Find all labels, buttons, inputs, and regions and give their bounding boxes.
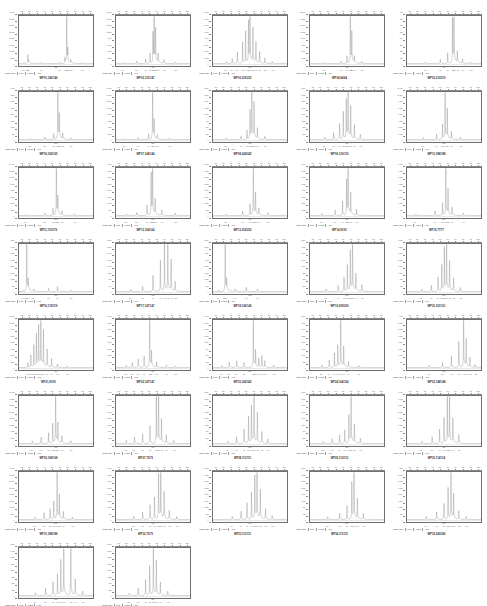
plot-area[interactable] [309, 15, 385, 67]
x-tick-label: 400 [237, 87, 240, 89]
plot-area[interactable] [406, 395, 482, 447]
plot-area[interactable] [212, 91, 288, 143]
y-tick-label: 15,000 [9, 418, 14, 420]
plot-area[interactable] [212, 471, 288, 523]
spectrum-panel-12[interactable]: 1002003004005006007008009001000 05001,00… [97, 156, 194, 232]
x-tick-label: 900 [178, 11, 181, 13]
plot-area[interactable] [18, 547, 94, 599]
x-axis-top: 1002003004005006007008009001000 [406, 236, 482, 243]
plot-area[interactable] [115, 167, 191, 219]
spectrum-panel-13[interactable]: 1002003004005006007008009001000 06251,25… [194, 156, 291, 232]
spectrum-panel-18[interactable]: 1002003004005006007008009001000 08131,62… [194, 232, 291, 308]
spectrum-panel-16[interactable]: 1002003004005006007008009001000 06881,37… [0, 232, 97, 308]
plot-area[interactable] [212, 243, 288, 295]
x-tick-label: 400 [140, 391, 143, 393]
spectrum-panel-30[interactable]: 1002003004005006007008009001000 04258501… [388, 384, 485, 460]
spectrum-panel-27[interactable]: 1002003004005006007008009001000 05751,15… [97, 384, 194, 460]
spectrum-panel-33[interactable]: 1002003004005006007008009001000 06251,25… [194, 460, 291, 536]
y-tick [306, 433, 308, 434]
mz-label: 774 [462, 222, 465, 224]
spectrum-panel-5[interactable]: 1002003004005006007008009001000 01132253… [388, 4, 485, 80]
y-tick [306, 325, 308, 326]
spectrum-panel-2[interactable]: 1002003004005006007008009001000 02,2504,… [97, 4, 194, 80]
spectrum-panel-37[interactable]: 1002003004005006007008009001000 03757501… [97, 536, 194, 606]
y-tick-label: 1,100 [301, 266, 305, 268]
y-tick-label: 2,750 [301, 58, 305, 60]
x-tick-label: 900 [178, 543, 181, 545]
plot-area[interactable] [18, 91, 94, 143]
plot-area[interactable] [212, 319, 288, 371]
plot-area[interactable] [115, 319, 191, 371]
plot-area[interactable] [18, 395, 94, 447]
plot-area[interactable] [115, 547, 191, 599]
plot-area[interactable] [406, 167, 482, 219]
spectrum-panel-4[interactable]: 1002003004005006007008009001000 02,7505,… [291, 4, 388, 80]
plot-area[interactable] [406, 471, 482, 523]
spectrum-panel-7[interactable]: 1002003004005006007008009001000 02,1254,… [97, 80, 194, 156]
spectrum-panel-20[interactable]: 1002003004005006007008009001000 04509001… [388, 232, 485, 308]
spectrum-panel-28[interactable]: 1002003004005006007008009001000 03757501… [194, 384, 291, 460]
spectrum-panel-21[interactable]: 1002003004005006007008009001000 01,5003,… [0, 308, 97, 384]
legend-item-area: Area [229, 224, 236, 226]
plot-area[interactable] [115, 395, 191, 447]
plot-area[interactable] [309, 319, 385, 371]
plot-area[interactable] [309, 471, 385, 523]
spectrum-panel-1[interactable]: 1002003004005006007008009001000 05,62511… [0, 4, 97, 80]
plot-area[interactable] [406, 91, 482, 143]
panel-legend: Mass LabelTimeHeightArea [198, 452, 236, 455]
plot-area[interactable] [309, 395, 385, 447]
spectrum-panel-22[interactable]: 1002003004005006007008009001000 01,1252,… [97, 308, 194, 384]
plot-area[interactable] [406, 15, 482, 67]
spectrum-panel-26[interactable]: 1002003004005006007008009001000 03,7507,… [0, 384, 97, 460]
plot-area[interactable] [18, 471, 94, 523]
spectrum-panel-32[interactable]: 1002003004005006007008009001000 07501,50… [97, 460, 194, 536]
spectrum-panel-8[interactable]: 1002003004005006007008009001000 03256509… [194, 80, 291, 156]
legend-item-height: Height [317, 224, 325, 226]
spectrum-panel-24[interactable]: 1002003004005006007008009001000 06501,30… [291, 308, 388, 384]
spectrum-panel-3[interactable]: 1002003004005006007008009001000 01,0002,… [194, 4, 291, 80]
spectrum-panel-15[interactable]: 1002003004005006007008009001000 08751,75… [388, 156, 485, 232]
spectrum-panel-25[interactable]: 1002003004005006007008009001000 05501,10… [388, 308, 485, 384]
spectrum-panel-29[interactable]: 1002003004005006007008009001000 03507001… [291, 384, 388, 460]
spectrum-panel-34[interactable]: 1002003004005006007008009001000 04759501… [291, 460, 388, 536]
spectrum-panel-14[interactable]: 1002003004005006007008009001000 01,1252,… [291, 156, 388, 232]
plot-area[interactable] [406, 319, 482, 371]
panel-legend: Mass LabelTimeHeightArea [392, 224, 430, 227]
spectrum-panel-6[interactable]: 1002003004005006007008009001000 07501,50… [0, 80, 97, 156]
y-tick-label: 4,025 [107, 399, 111, 401]
mz-label: 699 [165, 450, 168, 452]
plot-area[interactable] [309, 167, 385, 219]
spectrum-panel-23[interactable]: 1002003004005006007008009001000 03006009… [194, 308, 291, 384]
plot-area[interactable] [309, 91, 385, 143]
plot-area[interactable] [115, 15, 191, 67]
x-tick-label: 200 [125, 163, 128, 165]
plot-area[interactable] [406, 243, 482, 295]
plot-area[interactable] [115, 243, 191, 295]
x-tick-label: 900 [275, 87, 278, 89]
plot-area[interactable] [212, 15, 288, 67]
y-tick-label: 2,800 [107, 247, 111, 249]
plot-area[interactable] [212, 167, 288, 219]
spectrum-trace-svg [310, 168, 384, 218]
legend-item-mass-label: Mass Label [392, 452, 405, 454]
spectrum-panel-11[interactable]: 1002003004005006007008009001000 01,7503,… [0, 156, 97, 232]
mz-label: 577 [156, 374, 159, 376]
spectrum-panel-19[interactable]: 1002003004005006007008009001000 02755508… [291, 232, 388, 308]
plot-area[interactable] [18, 167, 94, 219]
plot-area[interactable] [18, 319, 94, 371]
plot-area[interactable] [115, 91, 191, 143]
spectrum-panel-17[interactable]: 1002003004005006007008009001000 04008001… [97, 232, 194, 308]
spectrum-panel-10[interactable]: 1002003004005006007008009001000 01,5003,… [388, 80, 485, 156]
plot-area[interactable] [18, 243, 94, 295]
y-tick [306, 318, 308, 319]
spectrum-panel-9[interactable]: 1002003004005006007008009001000 03757501… [291, 80, 388, 156]
spectrum-panel-35[interactable]: 1002003004005006007008009001000 05251,05… [388, 460, 485, 536]
y-tick [112, 325, 114, 326]
plot-area[interactable] [212, 395, 288, 447]
spectrum-panel-36[interactable]: 1002003004005006007008009001000 02755508… [0, 536, 97, 606]
x-tick-label: 500 [51, 87, 54, 89]
plot-area[interactable] [115, 471, 191, 523]
plot-area[interactable] [309, 243, 385, 295]
plot-area[interactable] [18, 15, 94, 67]
spectrum-panel-31[interactable]: 1002003004005006007008009001000 05,00010… [0, 460, 97, 536]
